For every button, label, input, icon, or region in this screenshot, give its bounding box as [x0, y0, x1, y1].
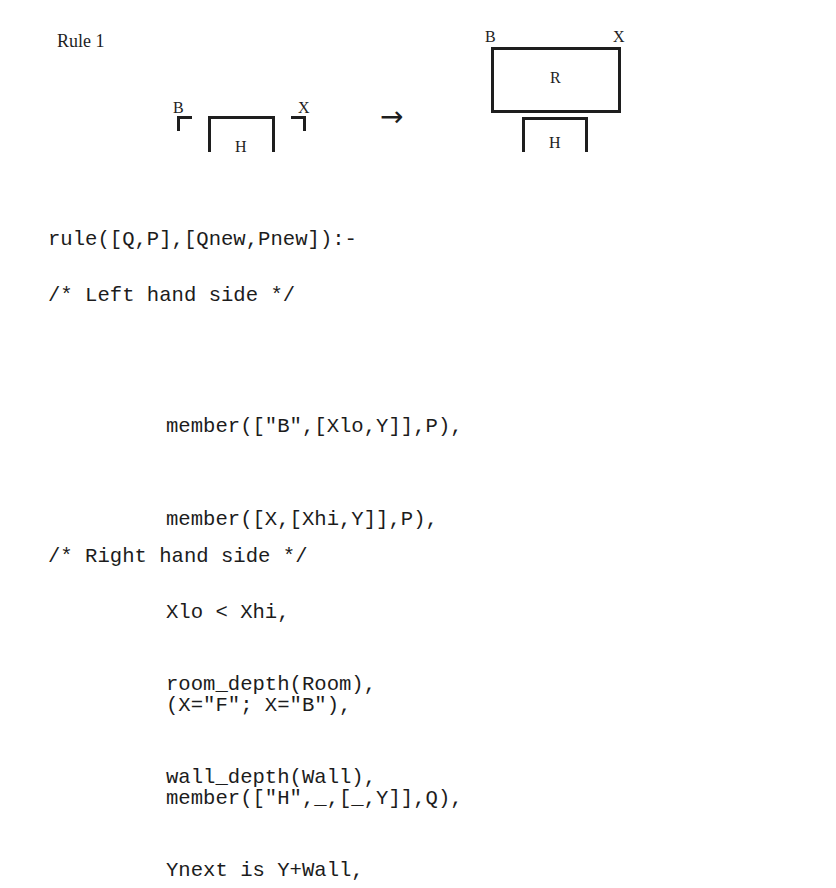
- code-line: room_depth(Room),: [166, 669, 784, 700]
- code-line: member([X,[Xhi,Y]],P),: [166, 504, 463, 535]
- label-x: X: [613, 29, 625, 45]
- code-line: Ynext is Y+Wall,: [166, 855, 784, 886]
- right-arrow-icon: →: [380, 103, 403, 131]
- rule-head: rule([Q,P],[Qnew,Pnew]):-: [48, 224, 357, 255]
- label-r: R: [550, 70, 561, 86]
- code-line: member(["B",[Xlo,Y]],P),: [166, 411, 463, 442]
- label-x: X: [298, 100, 310, 116]
- lhs-comment: /* Left hand side */: [48, 280, 295, 311]
- rule-title: Rule 1: [57, 32, 105, 50]
- label-b: B: [485, 29, 496, 45]
- rhs-comment: /* Right hand side */: [48, 541, 308, 572]
- label-h: H: [235, 139, 247, 155]
- label-b: B: [173, 100, 184, 116]
- label-h: H: [549, 135, 561, 151]
- code-line: wall_depth(Wall),: [166, 762, 784, 793]
- rhs-block: room_depth(Room), wall_depth(Wall), Ynex…: [166, 607, 784, 888]
